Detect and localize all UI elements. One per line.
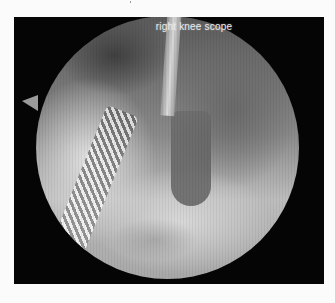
arthroscopic-field-of-view — [36, 17, 299, 279]
artifact-speck — [130, 1, 131, 3]
shaver-instrument — [51, 105, 139, 257]
ligament-tissue — [171, 111, 211, 206]
overlay-label: right knee scope — [14, 21, 324, 32]
scope-orientation-notch — [22, 95, 38, 111]
arthroscopy-frame: right knee scope — [14, 17, 324, 284]
